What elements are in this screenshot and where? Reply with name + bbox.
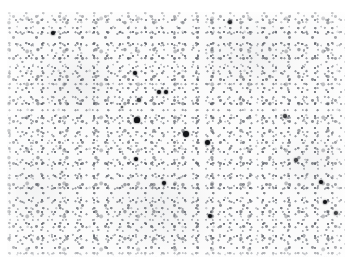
stipple-layer-dense <box>7 12 345 257</box>
signal-dot <box>137 98 140 101</box>
tissue-mottling-layer <box>7 12 345 257</box>
signal-dot <box>162 181 167 186</box>
stipple-layer-coarse <box>7 12 345 257</box>
edge-fade-layer <box>7 12 345 257</box>
signal-dot <box>239 98 242 101</box>
signal-dot <box>133 71 137 75</box>
signal-dot <box>51 31 55 35</box>
signal-dot <box>294 158 298 162</box>
signal-dot <box>164 90 168 94</box>
stipple-layer-fine <box>7 12 345 257</box>
signal-dot <box>319 180 323 184</box>
signal-dot <box>323 200 327 204</box>
stipple-layer-medium <box>7 12 345 257</box>
stipple-layer-large <box>7 12 345 257</box>
signal-dot <box>283 114 287 118</box>
signal-dot <box>228 20 233 25</box>
signal-dot <box>134 117 139 122</box>
signal-dot <box>157 90 162 95</box>
signal-dot <box>208 214 213 219</box>
signal-dot <box>121 106 124 109</box>
signal-dot <box>334 211 338 215</box>
signal-dot <box>183 131 189 137</box>
micrograph-image-panel <box>7 12 345 257</box>
micrograph-figure <box>0 0 353 267</box>
signal-dot <box>61 171 64 174</box>
signal-dot <box>205 140 210 145</box>
signal-dot <box>134 157 138 161</box>
